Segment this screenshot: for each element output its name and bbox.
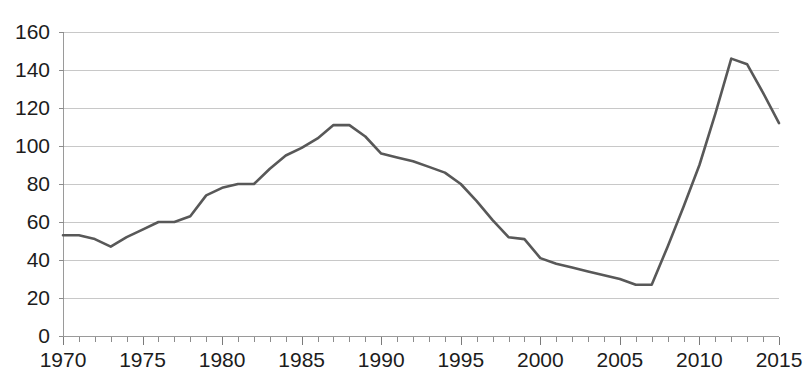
x-tick-label: 1975 [119,348,166,371]
x-tick-label: 1985 [278,348,325,371]
y-tick-label: 100 [15,134,50,157]
x-tick-marks-group [64,337,780,345]
y-tick-labels-group: 020406080100120140160 [15,20,50,347]
y-tick-label: 120 [15,96,50,119]
x-tick-label: 1970 [40,348,87,371]
x-tick-label: 1980 [199,348,246,371]
x-tick-label: 2005 [597,348,644,371]
y-axis-line-group [59,32,64,337]
line-chart-figure: 020406080100120140160 197019751980198519… [0,0,811,391]
x-tick-label: 1990 [358,348,405,371]
chart-plot-area: 020406080100120140160 197019751980198519… [0,0,811,391]
y-tick-label: 160 [15,20,50,43]
y-tick-label: 140 [15,58,50,81]
y-tick-label: 20 [27,286,50,309]
x-tick-label: 2015 [756,348,803,371]
x-tick-label: 2000 [517,348,564,371]
y-tick-label: 60 [27,210,50,233]
x-tick-labels-group: 1970197519801985199019952000200520102015 [40,348,803,371]
y-tick-label: 40 [27,248,50,271]
y-tick-label: 0 [38,324,50,347]
gridlines-group [63,33,779,337]
data-series-group [63,59,779,285]
x-tick-label: 2010 [676,348,723,371]
y-tick-label: 80 [27,172,50,195]
data-line-series [63,59,779,285]
x-tick-label: 1995 [437,348,484,371]
